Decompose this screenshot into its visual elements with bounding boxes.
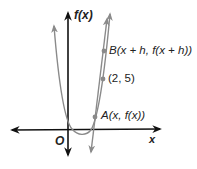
point-a-label: A(x, f(x)) [101, 110, 145, 122]
diagram-svg [0, 0, 197, 169]
x-axis [12, 129, 160, 130]
point-a [93, 115, 98, 120]
point-b-label: B(x + h, f(x + h)) [109, 45, 192, 57]
x-axis-label: x [149, 134, 155, 145]
secant-line [91, 19, 107, 152]
origin-label: O [55, 135, 64, 147]
y-axis-label: f(x) [74, 9, 93, 21]
point-b [102, 49, 107, 54]
point-2-5-label: (2, 5) [108, 73, 135, 85]
diagram-canvas: f(x) x O B(x + h, f(x + h)) (2, 5) A(x, … [0, 0, 197, 169]
point-2-5 [101, 77, 106, 82]
